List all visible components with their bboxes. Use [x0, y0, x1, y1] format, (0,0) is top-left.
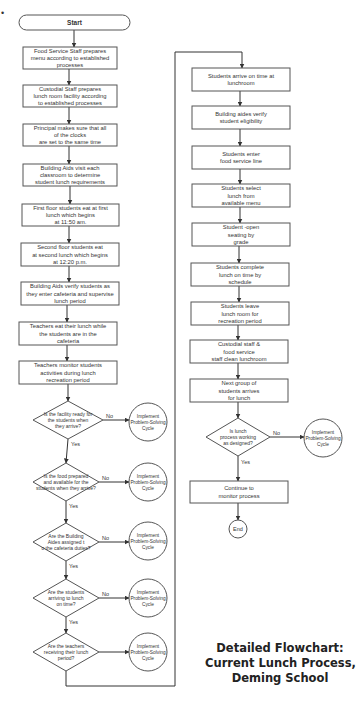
process-box-r2-line: Building aides verify [215, 111, 267, 117]
decision-d1[interactable]: Is the facility ready forthe students wh… [33, 401, 103, 439]
process-box-p8-line: cafeteria [57, 338, 80, 344]
process-box-r4[interactable]: Students selectlunch fromavailable menu [192, 184, 290, 207]
process-box-r5[interactable]: Student -openseating bygrade [192, 223, 290, 246]
no-label-d6: No [273, 430, 280, 436]
process-box-r8-line: staff clean lunchroom [212, 356, 267, 362]
process-box-p1-line: Food Service Staff prepares [34, 48, 106, 54]
process-box-p5-line: lunch which begins [46, 212, 95, 218]
process-box-p2-line: lunch room facility according [33, 93, 106, 99]
process-box-p1-line: menu according to established [31, 55, 110, 61]
decision-d5[interactable]: Are the teachersreceiving their lunchper… [33, 633, 99, 671]
process-box-r2-line: student eligibility [220, 118, 263, 124]
process-box-r8-line: food service [223, 349, 254, 355]
problem-solving-cycle-d5-line: Implement [137, 644, 160, 649]
decision-d6-line: Is lunch [229, 428, 246, 434]
problem-solving-cycle-d2-line: Implement [137, 474, 160, 479]
title-line-1: Detailed Flowchart: [205, 641, 355, 656]
decision-d4-line: arriving to lunch [48, 595, 84, 601]
decision-d2-line: and available for the [43, 479, 88, 485]
decision-d1-line: Is the facility ready for [44, 411, 93, 417]
process-box-p4-line: student lunch requirements [35, 179, 105, 185]
process-box-p3-line: of the clocks [54, 132, 86, 138]
process-box-p8[interactable]: Teachers eat their lunch whilethe studen… [19, 322, 117, 345]
process-box-p2[interactable]: Custodial Staff prepareslunch room facil… [23, 85, 117, 107]
problem-solving-cycle-d5[interactable]: ImplementProblem-SolvingCycle [129, 633, 167, 671]
process-box-r6-line: Students complete [216, 264, 264, 270]
process-box-p7-line: lunch period [54, 298, 86, 304]
problem-solving-cycle-d5-line: Problem-Solving [130, 650, 166, 655]
problem-solving-cycle-d2-line: Problem-Solving [130, 480, 166, 485]
process-box-p4[interactable]: Building Aids visit eachclassroom to det… [23, 164, 117, 186]
yes-label-d1: Yes [71, 441, 80, 447]
problem-solving-cycle-d4[interactable]: ImplementProblem-SolvingCycle [129, 579, 167, 617]
problem-solving-cycle-d6[interactable]: ImplementProblem-SolvingCycle [304, 419, 342, 457]
decision-d4-line: Are the students [48, 589, 85, 595]
process-box-r10-line: monitor process [218, 493, 259, 499]
yes-label-d3: Yes [69, 563, 78, 569]
process-box-p8-line: Teachers eat their lunch while [30, 323, 106, 329]
process-box-r9[interactable]: Next group ofstudents arrivesfor lunch [190, 379, 288, 402]
process-box-p9-line: activities during lunch [40, 370, 95, 376]
decision-d2-line: Is the food prepared [44, 473, 89, 479]
yes-label-d6: Yes [241, 459, 250, 465]
problem-solving-cycle-d4-line: Cycle [142, 602, 154, 607]
problem-solving-cycle-d3-line: Problem-Solving [130, 539, 166, 544]
process-box-p7-line: they enter cafeteria and supervise [26, 291, 113, 297]
process-box-p5[interactable]: First floor students eat at firstlunch w… [22, 204, 119, 226]
process-box-r3-line: Students enter [222, 151, 260, 157]
process-box-p9-line: Teachers monitor students [34, 362, 102, 368]
process-box-p3[interactable]: Principal makes sure that allof the cloc… [23, 124, 117, 146]
process-box-r5-line: grade [234, 239, 249, 245]
problem-solving-cycle-d3[interactable]: ImplementProblem-SolvingCycle [129, 522, 167, 560]
process-box-p3-line: are set to the same time [39, 139, 101, 145]
problem-solving-cycle-d2[interactable]: ImplementProblem-SolvingCycle [129, 463, 167, 501]
process-box-r6[interactable]: Students completelunch on time byschedul… [191, 263, 289, 286]
problem-solving-cycle-d4-line: Implement [137, 590, 160, 595]
no-label-d1: No [106, 413, 113, 419]
decision-d1-line: the students when [48, 417, 89, 423]
end-terminal[interactable]: End [229, 520, 247, 538]
decision-d2[interactable]: Is the food preparedand available for th… [33, 463, 99, 501]
process-box-r1-line: lunchroom [227, 80, 254, 86]
decision-d4[interactable]: Are the studentsarriving to lunchon time… [33, 579, 99, 617]
no-label-d2: No [102, 475, 109, 481]
decision-d4-line: on time? [56, 601, 75, 607]
no-label-d3: No [102, 535, 109, 541]
process-box-p7[interactable]: Building Aids verify students asthey ent… [21, 282, 119, 305]
problem-solving-cycle-d3-line: Cycle [142, 545, 154, 550]
process-box-r9-line: Next group of [222, 380, 257, 386]
decision-d6-line: process working [220, 434, 256, 440]
decision-d3-line: Aides assigned t [48, 539, 85, 545]
start-terminal[interactable]: Start [19, 15, 130, 30]
process-box-r10-line: Continue to [224, 485, 254, 491]
decision-d6[interactable]: Is lunchprocess workingas designed? [206, 418, 270, 456]
process-box-r4-line: available menu [222, 200, 261, 206]
process-box-p6-line: at 12:20 p.m. [53, 259, 87, 265]
process-box-p5-line: at 11:50 am. [55, 219, 87, 225]
process-box-r5-line: Student -open [223, 224, 259, 230]
process-box-p6[interactable]: Second floor students eatat second lunch… [21, 243, 119, 266]
process-box-r10[interactable]: Continue tomonitor process [190, 481, 288, 503]
decision-d3-line: Are the Building [48, 533, 84, 539]
problem-solving-cycle-d6-line: Problem-Solving [305, 436, 341, 441]
problem-solving-cycle-d6-line: Implement [312, 430, 335, 435]
process-box-p9[interactable]: Teachers monitor studentsactivities duri… [19, 361, 117, 384]
no-label-d4: No [102, 591, 109, 597]
problem-solving-cycle-d1[interactable]: ImplementProblem-SolvingCycle [129, 403, 167, 441]
process-box-r7[interactable]: Students leavelunch room forrecreation p… [191, 302, 289, 325]
yes-label-d2: Yes [69, 503, 78, 509]
process-box-r8-line: Custodial staff & [218, 341, 260, 347]
process-box-p2-line: to established processes [38, 100, 102, 106]
process-box-r8[interactable]: Custodial staff &food servicestaff clean… [190, 340, 288, 363]
process-box-r3-line: food service line [220, 158, 262, 164]
process-box-p6-line: Second floor students eat [37, 244, 103, 250]
process-box-r2[interactable]: Building aides verifystudent eligibility [192, 106, 290, 129]
process-box-p1[interactable]: Food Service Staff preparesmenu accordin… [23, 47, 117, 69]
decision-d3[interactable]: Are the BuildingAides assigned to the ca… [33, 523, 99, 561]
title-line-2: Current Lunch Process, [205, 656, 355, 671]
decision-d1-line: they arrive? [55, 423, 81, 429]
process-box-r1[interactable]: Students arrive on time atlunchroom [192, 68, 290, 91]
process-box-p8-line: the students are in the [39, 331, 96, 337]
decision-d5-line: period? [58, 655, 75, 661]
process-box-r3[interactable]: Students enterfood service line [192, 146, 290, 169]
